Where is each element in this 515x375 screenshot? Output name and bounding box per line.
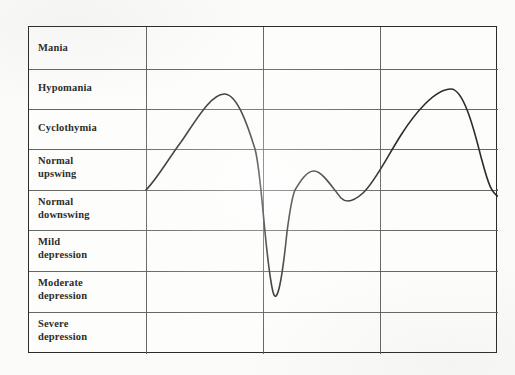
grid-line-vertical [380,27,381,354]
row-label-cyclothymia: Cyclothymia [38,122,143,135]
grid-line-vertical-label-column [146,27,147,354]
row-label-hypomania: Hypomania [38,82,143,95]
row-label-mania: Mania [38,42,143,55]
mood-curve [146,89,498,296]
grid-line-vertical [263,27,264,354]
mood-chart: Mania Hypomania Cyclothymia Normal upswi… [28,26,497,353]
row-label-severe-depression: Severe depression [38,318,143,343]
row-label-normal-downswing: Normal downswing [38,196,143,221]
page-background: Mania Hypomania Cyclothymia Normal upswi… [0,0,515,375]
row-label-normal-upswing: Normal upswing [38,155,143,180]
row-label-mild-depression: Mild depression [38,236,143,261]
row-label-moderate-depression: Moderate depression [38,277,143,302]
